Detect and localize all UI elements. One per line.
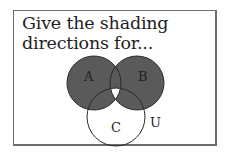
venn-diagram: A B C U [0,0,229,154]
universe-label: U [150,115,161,130]
set-b-label: B [138,69,148,84]
set-a-label: A [83,69,94,84]
set-c-label: C [111,120,121,135]
